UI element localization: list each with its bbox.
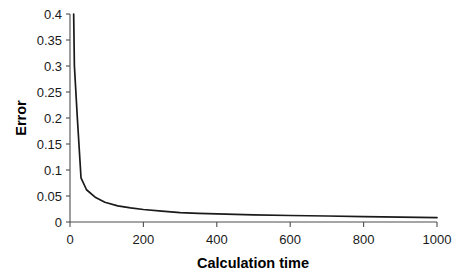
x-tick-label: 800 [353,232,375,247]
chart-container: 00.050.10.150.20.250.30.350.4 0200400600… [0,0,464,280]
error-vs-calculation-time-line-chart: 00.050.10.150.20.250.30.350.4 0200400600… [0,0,464,280]
y-tick-label: 0.4 [44,7,62,22]
y-axis-title: Error [13,100,29,136]
x-axis-ticks [70,222,437,227]
y-tick-label: 0.25 [37,85,62,100]
y-tick-label: 0.35 [37,33,62,48]
y-tick-label: 0.3 [44,59,62,74]
y-tick-label: 0 [55,215,62,230]
x-axis-tick-labels: 02004006008001000 [66,232,451,247]
x-tick-label: 400 [206,232,228,247]
x-tick-label: 600 [279,232,301,247]
y-axis-ticks [66,14,70,222]
x-axis-title: Calculation time [197,255,309,271]
y-tick-label: 0.1 [44,163,62,178]
x-tick-label: 200 [133,232,155,247]
y-tick-label: 0.15 [37,137,62,152]
y-tick-label: 0.05 [37,189,62,204]
y-axis-tick-labels: 00.050.10.150.20.250.30.350.4 [37,7,62,230]
y-tick-label: 0.2 [44,111,62,126]
x-tick-label: 0 [66,232,73,247]
plot-area [70,14,437,222]
x-tick-label: 1000 [423,232,452,247]
